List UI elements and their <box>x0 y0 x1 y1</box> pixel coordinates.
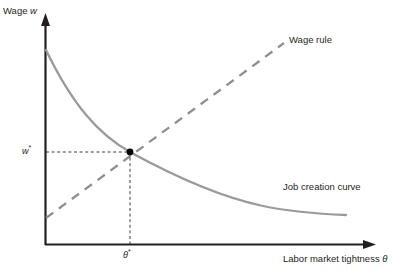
wage-rule-line <box>46 43 284 218</box>
economics-figure: Wage w Labor market tightness θ Wage rul… <box>0 0 393 270</box>
equilibrium-wage-star: * <box>29 144 32 151</box>
y-axis-arrowhead <box>41 13 50 26</box>
plot-canvas <box>0 0 393 270</box>
wage-rule-label: Wage rule <box>289 35 332 45</box>
y-axis-symbol: w <box>30 5 37 16</box>
y-axis-label-text: Wage <box>3 5 27 16</box>
equilibrium-tightness-tick: θ* <box>123 251 131 260</box>
x-axis-symbol: θ <box>382 253 387 264</box>
x-axis-arrowhead <box>363 240 376 249</box>
equilibrium-point-marker <box>127 149 134 156</box>
x-axis-label: Labor market tightness θ <box>283 254 387 264</box>
y-axis <box>41 13 50 245</box>
equilibrium-tightness-star: * <box>128 248 131 255</box>
job-creation-curve-label: Job creation curve <box>283 182 361 192</box>
x-axis <box>45 240 376 249</box>
x-axis-label-text: Labor market tightness <box>283 253 380 264</box>
equilibrium-wage-tick: w* <box>22 147 31 156</box>
y-axis-label: Wage w <box>3 6 37 16</box>
